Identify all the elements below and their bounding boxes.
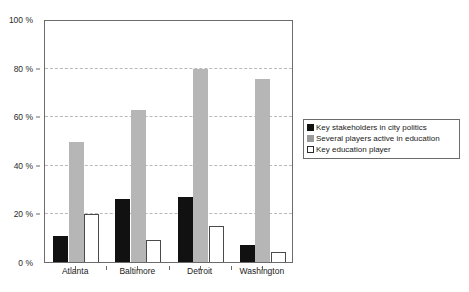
legend-item-0: Key stakeholders in city politics	[307, 122, 456, 133]
x-axis: AtlantaBaltimoreDetroitWashington	[44, 266, 293, 282]
bar-atlanta-series-1	[69, 142, 84, 263]
y-tick-label-80: 80 %	[14, 64, 33, 73]
x-group-separator-3	[231, 266, 232, 270]
bar-group-detroit	[170, 21, 232, 262]
y-tick-mark-40	[36, 165, 40, 166]
legend-item-2: Key education player	[307, 144, 456, 155]
y-tick-label-40: 40 %	[14, 161, 33, 170]
y-tick-mark-20	[36, 214, 40, 215]
legend-swatch-black	[307, 124, 314, 131]
legend-item-1: Several players active in education	[307, 133, 456, 144]
bar-group-washington	[232, 21, 294, 262]
bar-washington-series-0	[240, 245, 255, 262]
legend-swatch-gray	[307, 135, 314, 142]
legend-swatch-white	[307, 146, 314, 153]
legend-label-0: Key stakeholders in city politics	[316, 123, 427, 132]
x-group-separator-2	[169, 266, 170, 270]
legend-label-2: Key education player	[316, 145, 391, 154]
y-tick-label-60: 60 %	[14, 113, 33, 122]
x-tick-label-detroit: Detroit	[187, 266, 212, 277]
bar-detroit-series-2	[209, 226, 224, 262]
bar-baltimore-series-1	[131, 110, 146, 262]
bar-baltimore-series-2	[146, 240, 161, 262]
y-tick-mark-80	[36, 68, 40, 69]
x-tick-label-baltimore: Baltimore	[119, 266, 155, 277]
bar-detroit-series-0	[178, 197, 193, 262]
plot-area	[44, 20, 293, 263]
bar-group-atlanta	[45, 21, 107, 262]
y-tick-label-100: 100 %	[9, 16, 33, 25]
x-group-separator-1	[106, 266, 107, 270]
x-tick-label-atlanta: Atlanta	[62, 266, 88, 277]
bar-group-baltimore	[107, 21, 169, 262]
bar-washington-series-2	[271, 252, 286, 262]
bar-baltimore-series-0	[115, 199, 130, 262]
legend-label-1: Several players active in education	[316, 134, 440, 143]
bar-chart-figure: 0 %20 %40 %60 %80 %100 % AtlantaBaltimor…	[0, 0, 469, 292]
bar-atlanta-series-2	[84, 214, 99, 262]
chart-legend: Key stakeholders in city politicsSeveral…	[303, 119, 460, 159]
bar-washington-series-1	[255, 79, 270, 262]
y-tick-mark-60	[36, 117, 40, 118]
y-tick-label-0: 0 %	[18, 259, 33, 268]
y-tick-label-20: 20 %	[14, 210, 33, 219]
bar-atlanta-series-0	[53, 236, 68, 263]
x-tick-label-washington: Washington	[240, 266, 285, 277]
bar-detroit-series-1	[193, 69, 208, 262]
y-axis: 0 %20 %40 %60 %80 %100 %	[0, 20, 40, 263]
